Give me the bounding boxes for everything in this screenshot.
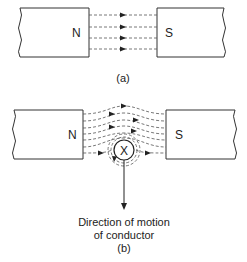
motion-arrow bbox=[121, 160, 127, 210]
field-arrow-icon bbox=[133, 118, 139, 123]
north-magnet-a: N bbox=[19, 8, 90, 57]
field-arrow-icon bbox=[109, 125, 115, 130]
conductor: X bbox=[114, 140, 134, 160]
north-pole-label-b: N bbox=[68, 128, 77, 142]
south-magnet-a: S bbox=[157, 8, 226, 57]
south-magnet-b: S bbox=[166, 110, 237, 159]
caption-a: (a) bbox=[116, 72, 129, 84]
field-arrow-icon bbox=[98, 151, 104, 156]
field-arrow-icon bbox=[121, 104, 127, 109]
field-line bbox=[136, 150, 166, 153]
south-pole-label-a: S bbox=[165, 26, 173, 40]
field-line bbox=[83, 120, 166, 128]
field-arrow-icon bbox=[120, 36, 126, 41]
north-magnet-b: N bbox=[13, 110, 84, 159]
north-pole-label-a: N bbox=[72, 26, 81, 40]
field-arrow-icon bbox=[120, 13, 126, 18]
field-arrow-icon bbox=[131, 129, 137, 134]
field-arrow-icon bbox=[120, 25, 126, 30]
field-lines-a bbox=[89, 13, 157, 52]
field-arrow-icon bbox=[109, 112, 115, 117]
arrow-down-icon bbox=[121, 203, 127, 210]
conductor-current-into-page-icon: X bbox=[120, 144, 128, 158]
caption-b: (b) bbox=[117, 242, 130, 254]
south-pole-label-b: S bbox=[175, 128, 183, 142]
field-arrow-icon bbox=[145, 151, 151, 156]
motion-label-line1: Direction of motion bbox=[78, 216, 170, 228]
field-arrow-icon bbox=[120, 47, 126, 52]
magnetic-field-diagram: N S (a) N S bbox=[0, 0, 247, 262]
figure-a: N S (a) bbox=[19, 8, 226, 84]
figure-b: N S bbox=[13, 104, 237, 255]
field-line bbox=[83, 150, 112, 153]
motion-label-line2: of conductor bbox=[94, 229, 155, 241]
